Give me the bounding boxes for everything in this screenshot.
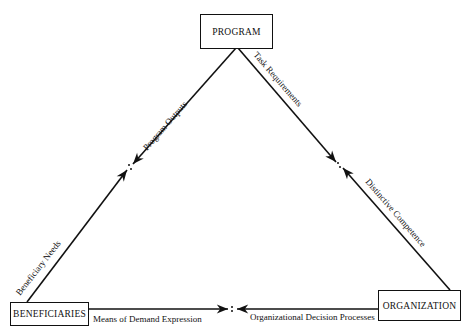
node-organization: ORGANIZATION xyxy=(378,290,461,321)
label-task-requirements: Task Requirements xyxy=(251,50,304,109)
node-program-label: PROGRAM xyxy=(212,27,260,37)
edge-organization-to-right-mid xyxy=(343,168,450,290)
triangle-diagram: Program Outputs Beneficiary Needs Task R… xyxy=(0,0,473,335)
node-organization-label: ORGANIZATION xyxy=(383,301,457,311)
label-program-outputs: Program Outputs xyxy=(141,99,189,153)
right-midpoint-icon xyxy=(337,162,341,168)
label-distinctive-competence: Distinctive Competence xyxy=(363,177,427,249)
node-program: PROGRAM xyxy=(200,14,273,49)
label-organizational-decision-processes: Organizational Decision Processes xyxy=(250,312,375,322)
node-beneficiaries: BENEFICIARIES xyxy=(10,302,89,326)
edge-program-to-right-mid xyxy=(238,48,336,162)
left-midpoint-icon xyxy=(128,164,132,170)
label-means-of-demand-expression: Means of Demand Expression xyxy=(93,314,202,324)
edge-beneficiaries-to-left-mid xyxy=(27,170,127,302)
bottom-midpoint-icon xyxy=(231,306,233,312)
node-beneficiaries-label: BENEFICIARIES xyxy=(13,309,86,319)
